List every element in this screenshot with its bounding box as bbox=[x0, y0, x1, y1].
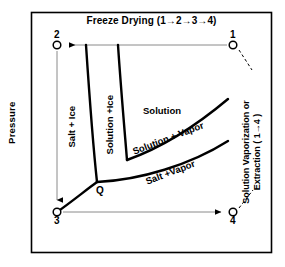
chart-title: Freeze Drying (1→2→3→4) bbox=[31, 16, 272, 26]
point-label-1: 1 bbox=[230, 29, 236, 40]
phase-diagram-figure: Pressure Freeze Drying (1→2→3→4) Salt + … bbox=[0, 0, 285, 267]
triple-point-label-q: Q bbox=[96, 186, 104, 196]
point-label-2: 2 bbox=[54, 29, 60, 40]
right-annotation-line-1: Solution Vaporization or bbox=[241, 100, 251, 204]
region-label-solution-ice: Solution +Ice bbox=[105, 87, 115, 163]
right-annotation-line-2: Extraction ( 1→4 ) bbox=[253, 73, 262, 231]
region-label-salt-ice: Salt + Ice bbox=[67, 97, 77, 157]
point-marker-1 bbox=[229, 41, 237, 49]
region-label-solution: Solution bbox=[143, 106, 181, 116]
y-axis-label: Pressure bbox=[7, 88, 17, 158]
point-marker-2 bbox=[53, 41, 61, 49]
right-annotation: Solution Vaporization or Extraction ( 1→… bbox=[242, 73, 262, 231]
point-label-4: 4 bbox=[230, 215, 236, 226]
point-label-3: 3 bbox=[54, 215, 60, 226]
